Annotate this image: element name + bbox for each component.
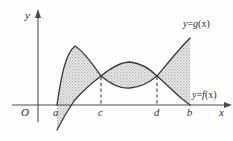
shaded-region-middle [101,62,157,88]
tick-label-b: b [187,108,192,119]
tick-label-a: a [53,108,58,119]
x-axis-label: x [219,107,224,118]
y-axis-label: y [25,10,30,21]
tick-label-d: d [154,108,159,119]
curve-label-f-arg: (x) [205,89,217,100]
origin-label: O [21,107,29,118]
curve-label-g-arg: (x) [198,18,210,29]
x-axis [12,102,232,108]
area-between-curves-figure: y x O a c d b y=g(x) y=f(x) [0,0,233,141]
tick-label-c: c [98,108,103,119]
shaded-region-right [157,38,190,105]
curve-label-f: y=f(x) [192,90,217,100]
curve-label-g: y=g(x) [183,19,210,29]
